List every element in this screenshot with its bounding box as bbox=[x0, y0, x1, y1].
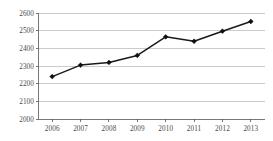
x-axis-tick-label: 2011 bbox=[187, 125, 202, 133]
x-axis-tick-label: 2008 bbox=[102, 125, 117, 133]
x-axis-tick-label: 2012 bbox=[215, 125, 230, 133]
y-axis-tick-label: 2500 bbox=[19, 27, 34, 35]
x-axis-tick-label: 2010 bbox=[158, 125, 173, 133]
y-axis-tick-label: 2000 bbox=[19, 116, 34, 124]
line-chart: 2000210022002300240025002600 20062007200… bbox=[0, 0, 273, 141]
x-axis-tick-label: 2007 bbox=[73, 125, 88, 133]
chart-canvas: 2000210022002300240025002600 20062007200… bbox=[0, 0, 273, 141]
chart-background bbox=[0, 0, 273, 141]
x-axis-tick-label: 2013 bbox=[243, 125, 258, 133]
y-axis-tick-label: 2400 bbox=[19, 45, 34, 53]
y-axis-tick-label: 2600 bbox=[19, 10, 34, 18]
x-axis-tick-label: 2009 bbox=[130, 125, 145, 133]
x-axis-tick-label: 2006 bbox=[45, 125, 60, 133]
y-axis-tick-label: 2100 bbox=[19, 98, 34, 106]
y-axis-tick-label: 2200 bbox=[19, 80, 34, 88]
y-axis-tick-label: 2300 bbox=[19, 63, 34, 71]
